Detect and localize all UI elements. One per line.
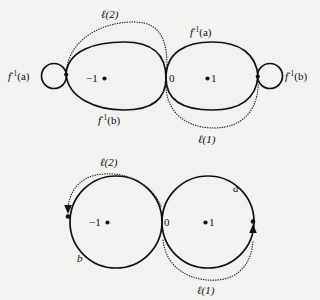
left-loop-label-top: f-1(a) [8, 69, 30, 83]
node-minus-one-label-top: −1 [86, 72, 98, 84]
node-one-point-bottom [203, 220, 207, 224]
lower-arc-label-arg: (b) [107, 114, 120, 127]
node-zero-label-top: 0 [169, 72, 175, 84]
ell-one-label-bottom: ℓ(1) [197, 284, 215, 297]
left-junction-point [64, 72, 68, 76]
right-small-loop-circle [258, 64, 283, 89]
node-one-point-top [205, 76, 209, 80]
figure-root: f-1(a) f-1(b) f-1(a) f-1(b) ℓ(2) ℓ(1) −1 [0, 0, 320, 300]
ell-one-label-top: ℓ(1) [198, 133, 216, 146]
left-ellipse-upper-arc [66, 42, 166, 78]
ell-two-label-top: ℓ(2) [101, 8, 119, 21]
ell-one-arrowhead [249, 224, 257, 233]
left-circle-bottom [70, 176, 162, 268]
node-one-label-bottom: 1 [209, 216, 215, 228]
left-small-loop-circle [42, 64, 67, 89]
left-ellipse-lower-arc [66, 74, 166, 110]
upper-arc-label-arg: (a) [199, 26, 212, 39]
node-minus-one-label-bottom: −1 [89, 216, 101, 228]
top-panel: f-1(a) f-1(b) f-1(a) f-1(b) ℓ(2) ℓ(1) −1 [8, 8, 307, 146]
ell-two-arrow-tip-dot [66, 214, 71, 219]
math-diagram-canvas: f-1(a) f-1(b) f-1(a) f-1(b) ℓ(2) ℓ(1) −1 [0, 0, 320, 300]
right-loop-label-top: f-1(b) [285, 69, 307, 83]
lower-arc-label-top: f-1(b) [98, 113, 120, 127]
right-loop-label-arg: (b) [294, 70, 307, 83]
node-minus-one-point-bottom [105, 220, 109, 224]
node-one-label-top: 1 [211, 72, 217, 84]
right-circle-bottom [162, 176, 254, 268]
right-junction-point [256, 74, 260, 78]
left-loop-label-arg: (a) [17, 70, 30, 83]
upper-arc-label-top: f-1(a) [190, 25, 212, 39]
bottom-panel: ℓ(2) ℓ(1) b a −1 0 1 [64, 156, 257, 297]
node-minus-one-point-top [102, 76, 106, 80]
right-circle-label-a: a [233, 182, 239, 194]
ell-two-dotted-arc-top [66, 22, 167, 78]
ell-one-dotted-arrow-bottom [163, 240, 253, 280]
left-circle-label-b: b [77, 252, 83, 264]
ell-one-arrow-tip-dot [251, 219, 256, 224]
node-zero-label-bottom: 0 [164, 216, 170, 228]
ell-two-label-bottom: ℓ(2) [100, 156, 118, 169]
